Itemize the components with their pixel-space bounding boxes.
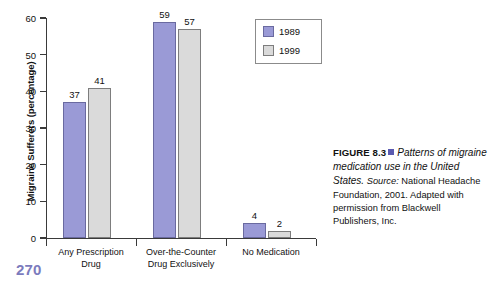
y-axis-tick-label: 0 [10,233,36,244]
y-axis-tick-label: 10 [10,196,36,207]
x-axis-separator-tick [226,239,227,246]
x-axis-separator-tick [136,239,137,246]
legend-label-1989: 1989 [279,26,300,37]
legend-entry-1999: 1999 [263,45,300,56]
y-axis-tick-label: 30 [10,123,36,134]
figure-region: Migraine Sufferers (percentage) 01020304… [0,0,330,292]
x-axis-separator-tick [46,239,47,246]
y-axis-tick-label: 20 [10,159,36,170]
figure-caption: FIGURE 8.3Patterns of migraine medicatio… [333,146,489,228]
bar-1989-2 [153,22,176,238]
figure-label: FIGURE 8.3 [333,147,386,158]
bar-value-label: 57 [184,16,195,27]
chart-legend: 1989 1999 [255,19,322,64]
y-axis-tick-label: 50 [10,49,36,60]
legend-label-1999: 1999 [279,45,300,56]
bar-value-label: 59 [159,9,170,20]
caption-bullet-icon [388,149,394,155]
legend-entry-1989: 1989 [263,26,300,37]
caption-source-label: Source: [367,176,399,186]
x-axis-category-label: Any Prescription Drug [58,247,124,270]
x-axis-separator-tick [316,239,317,246]
bar-value-label: 4 [252,210,257,221]
y-axis-tick-label: 60 [10,13,36,24]
bar-1989-3 [243,223,266,238]
bar-1989-1 [63,102,86,238]
bar-1999-2 [178,29,201,238]
bar-1999-3 [268,231,291,238]
series-1999-swatch [263,45,274,56]
page-number: 270 [16,261,42,278]
bar-1999-1 [88,88,111,238]
x-axis-line [46,238,316,239]
bar-value-label: 37 [69,89,80,100]
y-axis-tick-label: 40 [10,86,36,97]
series-1989-swatch [263,26,274,37]
x-axis-category-label: Over-the-Counter Drug Exclusively [146,247,216,270]
x-axis-category-label: No Medication [242,247,300,259]
bar-value-label: 41 [94,75,105,86]
bar-value-label: 2 [277,218,282,229]
